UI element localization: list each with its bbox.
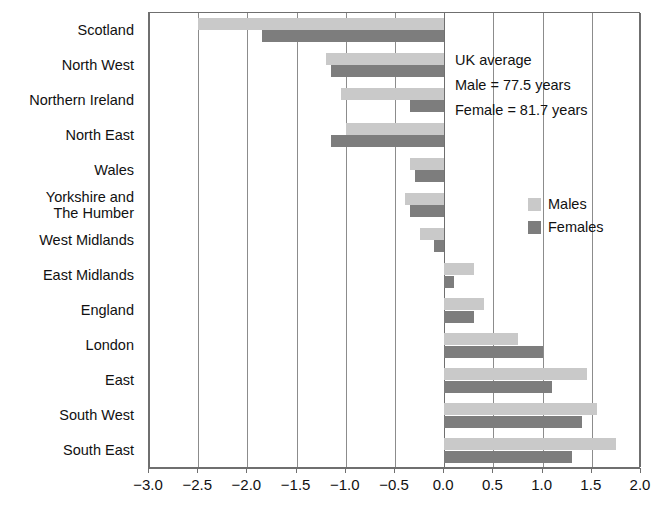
category-label-south-west: South West [0,407,134,423]
bar-row [149,329,639,364]
legend-label-males: Males [548,196,587,212]
bar-male-7 [444,263,474,275]
x-tick-mark-1 [197,468,198,473]
bar-row [149,364,639,399]
bar-female-2 [410,100,444,112]
legend-item-females: Females [528,219,604,235]
legend: MalesFemales [528,196,604,242]
x-tick-mark-9 [591,468,592,473]
bar-female-3 [331,135,444,147]
bar-female-12 [444,451,572,463]
x-tick-label-7: 0.5 [482,476,503,493]
bar-male-4 [410,158,444,170]
annotation-line-1: UK average [455,48,588,73]
bar-male-2 [341,88,444,100]
x-tick-mark-10 [640,468,641,473]
x-tick-mark-6 [443,468,444,473]
x-tick-mark-5 [394,468,395,473]
bar-female-11 [444,416,582,428]
category-label-northern-ireland: Northern Ireland [0,92,134,108]
bar-female-10 [444,381,552,393]
life-expectancy-difference-chart: ScotlandNorth WestNorthern IrelandNorth … [0,0,661,519]
bar-male-11 [444,403,597,415]
x-tick-mark-2 [246,468,247,473]
x-tick-mark-7 [492,468,493,473]
bar-male-8 [444,298,483,310]
bar-male-1 [326,53,444,65]
annotation-line-2: Male = 77.5 years [455,73,588,98]
bar-female-5 [410,205,444,217]
x-tick-mark-8 [542,468,543,473]
bar-row [149,13,639,48]
bar-female-0 [262,30,444,42]
bar-row [149,153,639,188]
legend-swatch-males [528,198,541,211]
bar-row [149,294,639,329]
bar-female-8 [444,311,474,323]
bar-male-6 [420,228,445,240]
category-label-south-east: South East [0,442,134,458]
category-label-scotland: Scotland [0,22,134,38]
uk-average-annotation: UK average Male = 77.5 years Female = 81… [455,48,588,123]
legend-label-females: Females [548,219,604,235]
bar-row [149,434,639,469]
x-tick-label-9: 1.5 [580,476,601,493]
x-tick-label-3: −1.5 [281,476,311,493]
bar-male-3 [346,123,444,135]
gridline-2 [640,13,641,467]
x-tick-label-5: −0.5 [379,476,409,493]
x-tick-label-4: −1.0 [330,476,360,493]
bar-female-9 [444,346,542,358]
bar-female-1 [331,65,444,77]
category-label-london: London [0,337,134,353]
category-label-north-east: North East [0,127,134,143]
x-tick-label-2: −2.0 [232,476,262,493]
x-tick-label-8: 1.0 [531,476,552,493]
x-tick-label-10: 2.0 [630,476,651,493]
bar-row [149,399,639,434]
bar-male-9 [444,333,518,345]
legend-swatch-females [528,221,541,234]
category-label-england: England [0,302,134,318]
bar-row [149,118,639,153]
category-label-north-west: North West [0,57,134,73]
bar-female-7 [444,276,454,288]
category-label-wales: Wales [0,162,134,178]
bar-male-10 [444,368,587,380]
bar-row [149,259,639,294]
x-tick-label-6: 0.0 [433,476,454,493]
legend-item-males: Males [528,196,604,212]
x-tick-label-1: −2.5 [182,476,212,493]
category-label-yorkshire-and-the-humber: Yorkshire and The Humber [0,189,134,221]
x-tick-label-0: −3.0 [133,476,163,493]
x-tick-mark-0 [148,468,149,473]
bar-male-12 [444,438,616,450]
category-label-east-midlands: East Midlands [0,267,134,283]
category-axis-labels: ScotlandNorth WestNorthern IrelandNorth … [0,12,142,468]
category-label-west-midlands: West Midlands [0,232,134,248]
bar-female-6 [434,240,444,252]
bar-male-0 [198,18,444,30]
category-label-east: East [0,372,134,388]
x-tick-mark-4 [345,468,346,473]
bar-male-5 [405,193,444,205]
x-tick-mark-3 [296,468,297,473]
annotation-line-3: Female = 81.7 years [455,98,588,123]
bar-female-4 [415,170,445,182]
